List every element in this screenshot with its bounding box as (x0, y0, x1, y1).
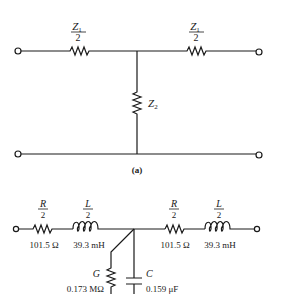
c-label: C (146, 268, 153, 279)
terminal-b-right (254, 226, 259, 231)
terminal-bottom-left (15, 151, 21, 157)
r-right-num: R (170, 198, 177, 209)
r-left-den: 2 (41, 210, 46, 220)
top-wire (21, 47, 256, 55)
shunt-c-capacitor (126, 229, 142, 294)
t-network-a (15, 47, 262, 158)
r-left-num: R (39, 198, 46, 209)
z2-label: Z2 (148, 97, 158, 111)
z1-left-den: 2 (76, 32, 81, 43)
l-right-num: L (215, 198, 222, 209)
r-right-den: 2 (172, 210, 177, 220)
l-right-value: 39.3 mH (204, 240, 236, 250)
l-left-value: 39.3 mH (73, 240, 105, 250)
b-right-series (165, 225, 205, 233)
terminal-bottom-right (256, 152, 262, 158)
r-left-value: 101.5 Ω (29, 240, 59, 250)
terminal-b-left (13, 226, 18, 231)
terminal-top-right (256, 49, 262, 55)
l-right-den: 2 (217, 210, 222, 220)
z1-right-den: 2 (194, 32, 199, 43)
b-left-series (19, 225, 73, 233)
circuit-diagram: Z1 2 Z1 2 Z2 (a) R 2 101.5 Ω L 2 39.3 mH… (0, 0, 281, 294)
b-left-inductor (73, 222, 165, 232)
c-value: 0.159 μF (146, 284, 178, 294)
l-left-num: L (84, 198, 91, 209)
shunt-z2-resistor (133, 51, 141, 154)
g-label: G (93, 268, 100, 279)
l-left-den: 2 (86, 210, 91, 220)
b-right-inductor (205, 222, 254, 232)
caption-a: (a) (132, 165, 143, 175)
terminal-top-left (15, 48, 21, 54)
r-right-value: 101.5 Ω (160, 240, 190, 250)
transmission-line-b (13, 222, 259, 294)
g-value: 0.173 MΩ (67, 284, 105, 294)
